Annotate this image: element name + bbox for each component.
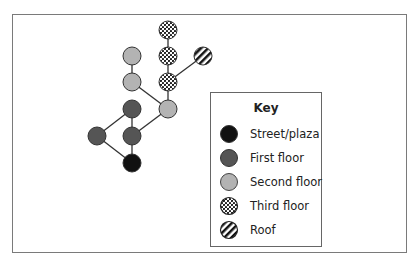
legend-item-roof: Roof — [219, 219, 276, 241]
legend-label: Roof — [250, 223, 276, 237]
node-second-s3 — [159, 100, 177, 118]
legend-item-third: Third floor — [219, 195, 309, 217]
node-second-s1 — [123, 47, 141, 65]
first-floor-swatch-icon — [219, 148, 239, 168]
node-third-t3 — [159, 73, 177, 91]
legend-item-first: First floor — [219, 147, 304, 169]
node-roof-r1 — [194, 47, 212, 65]
roof-swatch-icon — [219, 220, 239, 240]
legend-label: Third floor — [250, 199, 309, 213]
legend-item-second: Second floor — [219, 171, 322, 193]
third-floor-swatch-icon — [219, 196, 239, 216]
legend-label: Street/plaza — [250, 127, 319, 141]
node-first-f3 — [123, 127, 141, 145]
second-floor-swatch-icon — [219, 172, 239, 192]
legend-label: First floor — [250, 151, 304, 165]
node-first-f1 — [123, 100, 141, 118]
graph-edges — [97, 30, 203, 163]
legend-box: Key Street/plaza First floor Second floo… — [210, 92, 322, 247]
legend-label: Second floor — [250, 175, 322, 189]
graph-nodes — [88, 21, 212, 172]
node-third-t1 — [159, 21, 177, 39]
street-plaza-swatch-icon — [219, 124, 239, 144]
legend-item-street: Street/plaza — [219, 123, 319, 145]
node-second-s2 — [123, 73, 141, 91]
node-first-f2 — [88, 127, 106, 145]
node-street-p1 — [123, 154, 141, 172]
legend-title: Key — [211, 101, 321, 115]
node-third-t2 — [159, 47, 177, 65]
